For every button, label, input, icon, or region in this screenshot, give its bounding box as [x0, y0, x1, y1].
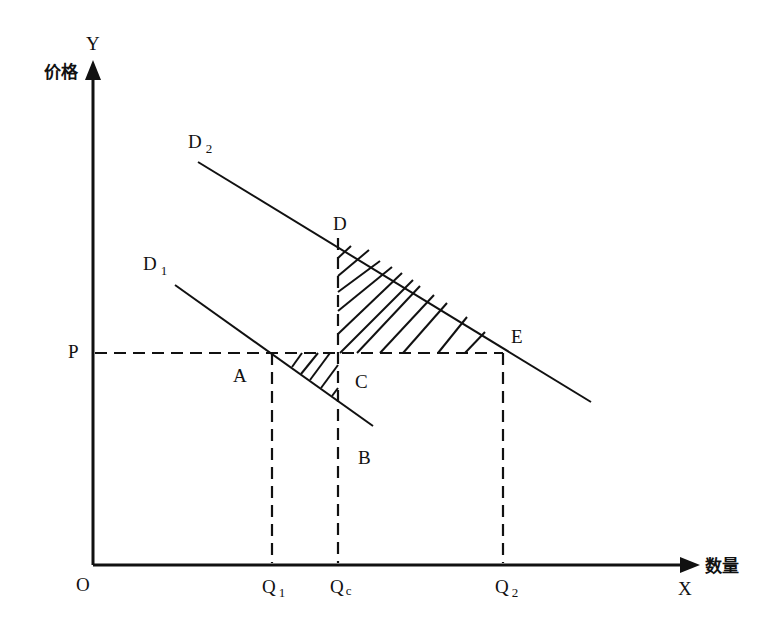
y-axis-label: 价格 [44, 62, 79, 82]
curve-label-d1: D1 [143, 253, 167, 278]
demand-curve-d2 [198, 162, 591, 402]
curve-label-d2: D2 [188, 131, 212, 156]
origin-label: O [76, 574, 90, 595]
x-axis-label: 数量 [705, 556, 739, 576]
y-axis-arrow-icon [85, 60, 101, 80]
quantity-label-qc: Qc [330, 576, 352, 598]
shaded-region-acb [292, 353, 338, 396]
point-label-a: A [233, 365, 247, 386]
point-label-c: C [355, 371, 368, 392]
quantity-label-q1: Q1 [262, 576, 285, 600]
point-label-e: E [511, 326, 523, 347]
price-label: P [68, 341, 79, 362]
y-axis-letter: Y [86, 33, 100, 54]
x-axis-letter: X [678, 578, 692, 599]
point-label-d: D [333, 213, 347, 234]
quantity-label-q2: Q2 [495, 576, 518, 600]
demand-diagram: Y 价格 数量 X O P D2 D1 D E A C B Q1 Q [0, 0, 779, 632]
x-axis-arrow-icon [680, 557, 700, 573]
point-label-b: B [358, 447, 371, 468]
